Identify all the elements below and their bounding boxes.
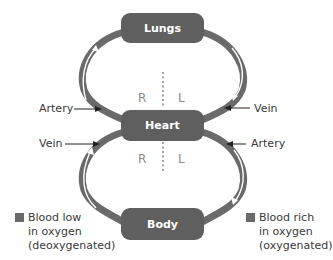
legend-text-deoxygenated-2: in oxygen [28, 225, 82, 239]
side-l-lower: L [178, 152, 185, 166]
artery-label-upper: Artery [39, 102, 73, 115]
pulmonary-loop-left [82, 32, 124, 120]
legend-deoxygenated: Blood low in oxygen (deoxygenated) [15, 211, 125, 255]
body-box: Body [121, 208, 204, 240]
legend-text-deoxygenated-3: (deoxygenated) [28, 239, 115, 253]
vein-label-upper: Vein [254, 102, 277, 115]
systemic-loop-left [82, 132, 124, 222]
body-label: Body [147, 218, 178, 231]
legend-text-oxygenated-3: (oxygenated) [259, 239, 333, 253]
side-r-upper: R [138, 91, 146, 105]
systemic-loop-right [202, 132, 243, 222]
legend-oxygenated: Blood rich in oxygen (oxygenated) [246, 211, 332, 255]
lungs-box: Lungs [121, 13, 204, 43]
side-r-lower: R [138, 152, 146, 166]
legend-text-deoxygenated-1: Blood low [28, 211, 81, 225]
lungs-label: Lungs [144, 22, 181, 35]
heart-label: Heart [145, 119, 180, 132]
legend-swatch-deoxygenated [15, 213, 24, 222]
legend-swatch-oxygenated [246, 213, 255, 222]
pulmonary-loop-right [202, 32, 243, 120]
legend-text-oxygenated-1: Blood rich [259, 211, 314, 225]
legend-text-oxygenated-2: in oxygen [259, 225, 313, 239]
side-l-upper: L [178, 91, 185, 105]
vein-label-lower: Vein [39, 137, 62, 150]
heart-box: Heart [121, 110, 204, 141]
artery-label-lower: Artery [251, 137, 285, 150]
